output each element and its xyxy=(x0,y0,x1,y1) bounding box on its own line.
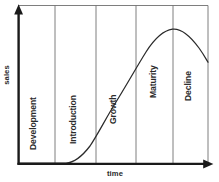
stage-label-introduction: Introduction xyxy=(68,95,78,144)
stage-label-development: Development xyxy=(28,97,38,150)
stage-label-growth: Growth xyxy=(108,95,118,124)
stage-label-decline: Decline xyxy=(183,71,193,101)
chart-canvas: sales time Development Introduction Grow… xyxy=(0,0,219,182)
product-life-cycle-diagram: sales time Development Introduction Grow… xyxy=(0,0,219,182)
y-axis-title: sales xyxy=(2,65,11,85)
plot-frame xyxy=(19,6,209,165)
stage-label-maturity: Maturity xyxy=(148,65,158,98)
x-axis-title: time xyxy=(107,169,123,178)
